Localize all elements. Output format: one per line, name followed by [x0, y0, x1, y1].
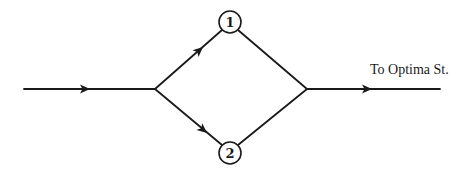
network-diagram: 1 2 — [0, 0, 468, 178]
edge-split-to-node-1 — [155, 30, 222, 89]
destination-label: To Optima St. — [370, 62, 449, 78]
node-1: 1 — [219, 11, 241, 33]
output-edge — [307, 85, 440, 94]
node-2-label: 2 — [225, 146, 234, 161]
edge-node-1-to-merge — [238, 30, 307, 89]
edge-node-2-to-merge — [238, 89, 307, 145]
edge-split-to-node-2 — [155, 89, 222, 145]
node-1-label: 1 — [225, 15, 234, 30]
node-2: 2 — [219, 142, 241, 164]
input-edge — [24, 85, 155, 94]
